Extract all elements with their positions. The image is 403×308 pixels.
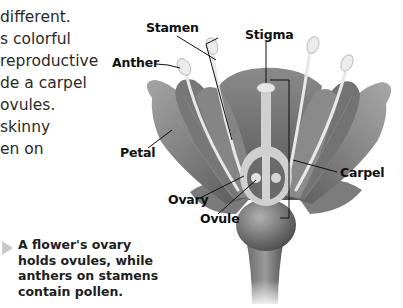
label-stigma: Stigma bbox=[245, 27, 293, 42]
figure-caption: A flower's ovary holds ovules, while ant… bbox=[18, 237, 168, 299]
label-petal: Petal bbox=[120, 145, 155, 160]
label-ovule: Ovule bbox=[200, 211, 239, 226]
label-stamen: Stamen bbox=[146, 20, 199, 35]
caption-pointer-triangle-icon bbox=[2, 241, 13, 255]
label-ovary: Ovary bbox=[168, 192, 209, 207]
label-carpel: Carpel bbox=[340, 165, 384, 180]
label-anther: Anther bbox=[112, 55, 159, 70]
